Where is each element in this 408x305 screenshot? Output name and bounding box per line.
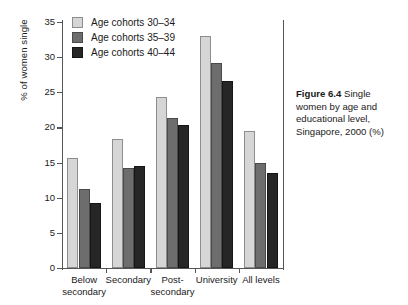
bar <box>123 168 134 269</box>
bar <box>112 139 123 268</box>
legend-item: Age cohorts 35–39 <box>72 30 175 44</box>
legend-item-label: Age cohorts 40–44 <box>91 47 175 58</box>
bar <box>67 158 78 268</box>
legend-item: Age cohorts 30–34 <box>72 15 175 29</box>
y-axis-tick-mark <box>57 198 62 199</box>
y-axis-tick-mark <box>57 22 62 23</box>
bar <box>267 173 278 268</box>
y-axis-tick-label: 0 <box>50 263 55 273</box>
legend-item: Age cohorts 40–44 <box>72 45 175 59</box>
bar <box>211 63 222 268</box>
bar <box>200 36 211 268</box>
bar-chart: % of women single 05101520253035 Belowse… <box>0 0 292 305</box>
y-axis-tick-label: 15 <box>44 158 55 168</box>
bar <box>156 97 167 268</box>
y-axis-tick-mark <box>57 57 62 58</box>
legend-swatch-icon <box>72 47 83 58</box>
bar <box>90 203 101 268</box>
x-axis-separator <box>195 268 196 273</box>
y-axis-tick-label: 35 <box>44 17 55 27</box>
chart-legend: Age cohorts 30–34Age cohorts 35–39Age co… <box>72 15 175 60</box>
x-axis-group-label: All levels <box>233 274 289 286</box>
bar <box>134 166 145 268</box>
bar <box>255 163 266 268</box>
legend-swatch-icon <box>72 32 83 43</box>
y-axis-tick-mark <box>57 127 62 128</box>
y-axis-tick-mark <box>57 268 62 269</box>
y-axis-tick-label: 20 <box>44 123 55 133</box>
legend-swatch-icon <box>72 17 83 28</box>
figure-caption: Figure 6.4 Single women by age and educa… <box>296 88 400 138</box>
bar <box>167 118 178 268</box>
x-axis-line <box>62 268 284 269</box>
x-axis-separator <box>239 268 240 273</box>
bar <box>244 131 255 268</box>
y-axis-tick-mark <box>57 92 62 93</box>
x-axis-separator <box>106 268 107 273</box>
figure-caption-label: Figure 6.4 <box>296 88 341 99</box>
x-axis-separator <box>150 268 151 273</box>
bar <box>222 81 233 268</box>
figure-container: % of women single 05101520253035 Belowse… <box>0 0 408 305</box>
y-axis-tick-label: 10 <box>44 193 55 203</box>
bar <box>79 189 90 268</box>
bar <box>178 125 189 268</box>
y-axis-tick-label: 5 <box>50 228 55 238</box>
y-axis-title: % of women single <box>18 0 29 130</box>
y-axis-tick-mark <box>57 163 62 164</box>
y-axis-tick-label: 30 <box>44 52 55 62</box>
legend-item-label: Age cohorts 30–34 <box>91 17 175 28</box>
y-axis-tick-mark <box>57 233 62 234</box>
y-axis-tick-label: 25 <box>44 88 55 98</box>
legend-item-label: Age cohorts 35–39 <box>91 32 175 43</box>
